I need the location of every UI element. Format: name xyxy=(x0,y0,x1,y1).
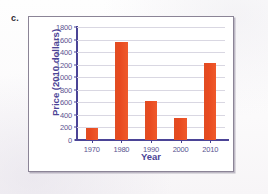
y-tick-label: 1400 xyxy=(56,48,72,57)
x-tick-mark xyxy=(210,140,211,143)
y-tick-label: 400 xyxy=(60,110,72,119)
y-tick-label: 600 xyxy=(60,98,72,107)
x-axis-title: Year xyxy=(77,151,225,162)
bar xyxy=(145,101,157,140)
bar xyxy=(174,118,186,140)
y-tick-label: 0 xyxy=(68,136,72,145)
y-tick-label: 1000 xyxy=(56,73,72,82)
y-tick-label: 200 xyxy=(60,123,72,132)
x-tick-mark xyxy=(151,140,152,143)
bars-layer xyxy=(77,27,225,140)
x-tick-mark xyxy=(92,140,93,143)
bar xyxy=(86,128,98,140)
x-tick-mark xyxy=(181,140,182,143)
chart-panel: Price (2010 dollars) 0200400600800100012… xyxy=(28,16,234,172)
y-tick-label: 800 xyxy=(60,85,72,94)
bar xyxy=(115,42,127,140)
y-tick-label: 1200 xyxy=(56,60,72,69)
y-tick-label: 1800 xyxy=(56,23,72,32)
plot-area: 020040060080010001200140016001800 197019… xyxy=(77,27,225,140)
y-tick-label: 1600 xyxy=(56,35,72,44)
x-tick-mark xyxy=(121,140,122,143)
part-label: c. xyxy=(11,13,19,23)
bar xyxy=(204,63,216,140)
plot-wrapper: Price (2010 dollars) 0200400600800100012… xyxy=(29,17,233,171)
